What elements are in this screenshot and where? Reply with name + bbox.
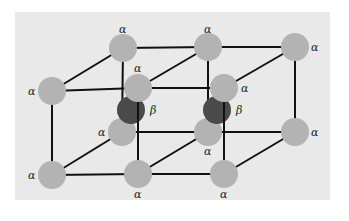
alpha-atom xyxy=(210,74,238,102)
bonds-layer xyxy=(52,47,295,175)
alpha-label: α xyxy=(134,62,142,75)
alpha-label: α xyxy=(28,85,36,98)
alpha-label: α xyxy=(134,188,142,201)
alpha-atom xyxy=(281,33,309,61)
alpha-label: α xyxy=(204,145,212,158)
alpha-label: α xyxy=(204,23,212,36)
alpha-atom xyxy=(109,34,137,62)
beta-label: β xyxy=(149,104,156,117)
alpha-label: α xyxy=(311,41,319,54)
alpha-atom xyxy=(194,33,222,61)
alpha-atom xyxy=(124,74,152,102)
alpha-atom xyxy=(38,77,66,105)
alpha-label: α xyxy=(311,126,319,139)
alpha-atom xyxy=(210,160,238,188)
alpha-label: α xyxy=(119,23,127,36)
alpha-atom xyxy=(124,160,152,188)
alpha-atom xyxy=(38,161,66,189)
alpha-label: α xyxy=(220,188,228,201)
crystal-lattice-diagram: ααααααββαααααα xyxy=(0,0,349,221)
beta-label: β xyxy=(235,104,242,117)
alpha-label: α xyxy=(98,126,106,139)
alpha-label: α xyxy=(28,169,36,182)
alpha-atom xyxy=(281,118,309,146)
atoms-layer xyxy=(38,33,309,189)
alpha-label: α xyxy=(241,82,249,95)
